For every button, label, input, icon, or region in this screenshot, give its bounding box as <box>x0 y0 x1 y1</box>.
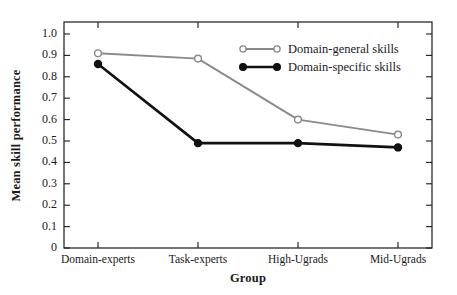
legend-swatch-domain-specific <box>238 60 282 74</box>
data-point <box>195 55 202 62</box>
x-tick-label: Mid-Ugrads <box>338 253 457 265</box>
data-point <box>295 116 302 123</box>
data-point <box>94 60 101 67</box>
data-point <box>95 50 102 57</box>
data-point <box>294 140 301 147</box>
legend-item-domain-specific: Domain-specific skills <box>238 58 401 76</box>
data-point <box>394 144 401 151</box>
series-line-1 <box>98 64 398 147</box>
data-point <box>194 140 201 147</box>
data-point <box>395 131 402 138</box>
legend-label-domain-general: Domain-general skills <box>282 42 399 57</box>
legend-item-domain-general: Domain-general skills <box>238 40 401 58</box>
chart-legend: Domain-general skills Domain-specific sk… <box>238 40 401 76</box>
y-axis-title: Mean skill performance <box>9 36 24 236</box>
x-axis-title: Group <box>64 271 432 286</box>
legend-swatch-domain-general <box>238 42 282 56</box>
chart-figure: 1.00.90.80.70.60.50.40.30.20.10 Domain-e… <box>0 0 457 295</box>
legend-label-domain-specific: Domain-specific skills <box>282 60 401 75</box>
